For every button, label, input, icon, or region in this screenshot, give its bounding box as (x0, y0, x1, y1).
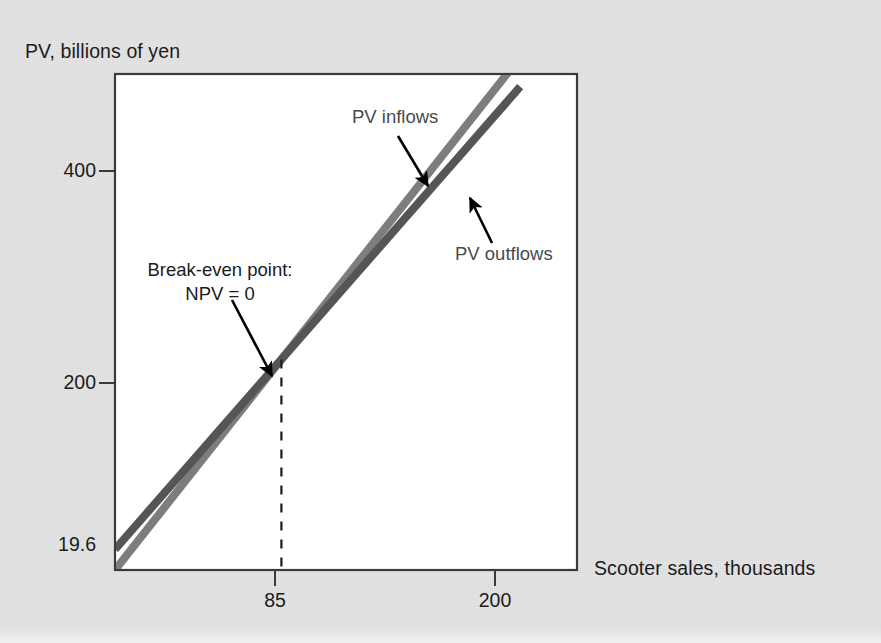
breakeven-callout: Break-even point: NPV = 0 (115, 258, 325, 306)
chart-page: PV, billions of yen Scooter sales, thous… (0, 0, 881, 643)
xtick-label-85: 85 (230, 589, 320, 612)
ytick-label-200: 200 (6, 371, 96, 394)
plot-area (115, 74, 577, 570)
ytick-label-400: 400 (6, 159, 96, 182)
breakeven-callout-line2: NPV = 0 (115, 282, 325, 306)
series-label-pv-inflows: PV inflows (352, 106, 438, 128)
x-axis-title: Scooter sales, thousands (594, 557, 815, 580)
series-label-pv-outflows: PV outflows (455, 243, 553, 265)
breakeven-callout-line1: Break-even point: (115, 258, 325, 282)
xtick-label-200: 200 (450, 589, 540, 612)
chart-canvas (0, 0, 881, 643)
y-axis-title: PV, billions of yen (25, 40, 180, 63)
ytick-label-19-6: 19.6 (6, 533, 96, 556)
